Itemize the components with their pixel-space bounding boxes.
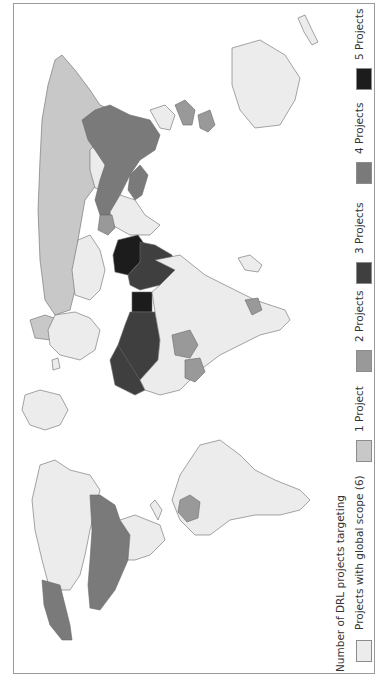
region-europe — [48, 312, 100, 360]
region-south-asia — [110, 195, 160, 235]
region-central-asia — [72, 235, 105, 300]
region-iceland — [52, 358, 60, 370]
region-usa — [88, 495, 130, 610]
region-south-america — [172, 440, 310, 535]
region-australia — [232, 40, 300, 128]
region-egypt — [132, 292, 152, 312]
region-madagascar — [238, 255, 262, 272]
world-map — [0, 0, 380, 688]
region-greenland — [22, 390, 68, 430]
region-new-zealand — [298, 15, 318, 45]
region-indonesia — [198, 110, 215, 132]
region-philippines — [175, 100, 195, 125]
region-pakistan-afghanistan — [98, 215, 115, 235]
region-caribbean — [150, 500, 162, 520]
